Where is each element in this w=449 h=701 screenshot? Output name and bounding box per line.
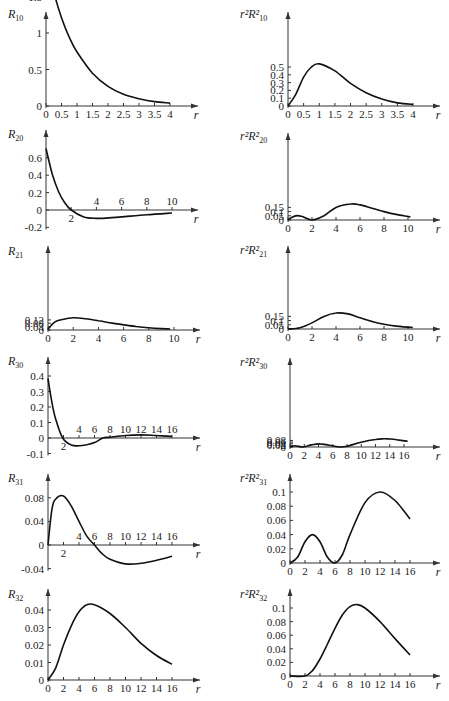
x-tick-label: 10 [403,222,415,234]
x-tick-label: 14 [151,530,163,542]
y-axis-arrow-icon [46,357,51,364]
y-tick-label: 0.04 [25,604,45,616]
x-tick-label: 6 [357,331,363,343]
x-tick-label: 10 [169,332,181,344]
x-tick-label: 0 [287,449,293,461]
x-tick-label: 2.5 [359,108,373,120]
x-tick-label: 4 [76,530,82,542]
x-tick-label: 10 [120,682,132,694]
y-axis-arrow-icon [286,246,291,253]
panel-R31: 246810121416-0.0400.040.08rR31 [7,471,201,575]
x-tick-label: 8 [381,222,387,234]
x-tick-label: 4 [410,108,416,120]
x-tick-label: 2 [68,212,74,224]
x-tick-label: 14 [390,565,402,577]
y-tick-label: 0.08 [25,492,45,504]
y-tick-label: 0.04 [267,643,287,655]
x-axis-label: r [436,331,441,345]
x-tick-label: 6 [92,530,98,542]
y-axis-label: R31 [7,471,23,487]
data-curve [288,204,410,220]
radial-wavefunction-figure: 00.511.522.533.5400.511.52rR1000.511.522… [0,0,449,701]
x-tick-label: 2 [309,222,315,234]
panel-r2R20sq: 024681000.050.10.15rr²R²20 [240,129,441,236]
x-tick-label: 4 [333,222,339,234]
x-tick-label: 0.5 [55,108,69,120]
x-tick-label: 10 [356,449,368,461]
x-tick-label: 4 [333,331,339,343]
x-tick-label: 12 [136,682,147,694]
x-tick-label: 2.5 [117,108,131,120]
x-tick-label: 1.5 [328,108,342,120]
x-tick-label: 8 [347,565,353,577]
panel-R20: 246810-0.200.20.40.6rR20 [7,127,199,233]
x-tick-label: 0 [287,565,293,577]
x-tick-label: 10 [120,530,132,542]
x-tick-label: 2 [70,332,76,344]
x-axis-label: r [436,565,441,579]
y-axis-label: r²R²21 [240,243,267,259]
x-tick-label: 2 [302,565,308,577]
y-tick-label: 1.5 [28,0,42,3]
panel-r2R32sq: 024681012141600.020.040.060.080.1rr²R²32 [240,587,441,692]
x-tick-label: 12 [136,423,147,435]
panel-r2R31sq: 024681012141600.020.040.060.080.1rr²R²31 [240,471,441,579]
y-tick-label: 0.6 [28,152,42,164]
x-tick-label: 12 [370,449,381,461]
x-axis-label: r [194,212,199,226]
x-tick-label: 6 [92,682,98,694]
y-tick-label: 0 [281,557,287,569]
y-axis-label: R21 [7,244,23,260]
x-tick-label: 8 [107,423,113,435]
data-curve [46,149,172,219]
x-tick-label: 4 [317,565,323,577]
y-axis-label: r²R²10 [240,7,267,23]
y-axis-arrow-icon [44,130,49,137]
x-axis-label: r [196,682,201,696]
x-axis-label: r [436,108,441,122]
x-tick-label: 6 [332,565,338,577]
y-tick-label: 0.04 [25,515,45,527]
x-tick-label: 0 [43,108,49,120]
y-tick-label: 0.06 [267,629,287,641]
x-tick-label: 12 [375,678,386,690]
y-tick-label: 0 [39,674,45,686]
x-tick-label: 6 [332,678,338,690]
y-tick-label: 0.08 [267,616,287,628]
y-axis-arrow-icon [46,589,51,596]
x-axis-label: r [196,440,201,454]
panel-r2R30sq: 024681012141600.020.040.060.08rr²R²30 [240,355,441,463]
data-curve [290,492,410,563]
x-tick-label: 4 [316,449,322,461]
x-tick-label: 1 [317,108,323,120]
x-tick-label: 14 [390,678,402,690]
y-tick-label: 0.01 [25,657,44,669]
x-tick-label: 8 [107,682,113,694]
x-axis-label: r [436,678,441,692]
x-tick-label: 16 [399,449,411,461]
y-tick-label: 0.5 [270,61,284,73]
y-tick-label: 0 [39,539,45,551]
x-axis-label: r [436,449,441,463]
x-tick-label: 4 [94,195,100,207]
y-tick-label: 0.08 [267,434,287,446]
x-tick-label: 14 [151,423,163,435]
x-tick-label: 1 [74,108,80,120]
x-tick-label: 3.5 [148,108,162,120]
x-tick-label: 14 [151,682,163,694]
panel-r2R10sq: 00.511.522.533.5400.10.20.30.40.5rr²R²10 [240,7,441,122]
x-tick-label: 0.5 [297,108,311,120]
data-curve [288,313,413,329]
y-tick-label: -0.1 [27,448,44,460]
y-axis-arrow-icon [286,12,291,19]
x-tick-label: 10 [360,678,372,690]
y-tick-label: 0 [281,670,287,682]
y-axis-label: R10 [7,7,23,23]
x-tick-label: 8 [107,530,113,542]
x-tick-label: 2 [302,449,308,461]
x-tick-label: 4 [317,678,323,690]
y-tick-label: 0.15 [265,310,285,322]
y-axis-arrow-icon [288,589,293,596]
x-tick-label: 6 [119,195,125,207]
x-axis-label: r [196,547,201,561]
